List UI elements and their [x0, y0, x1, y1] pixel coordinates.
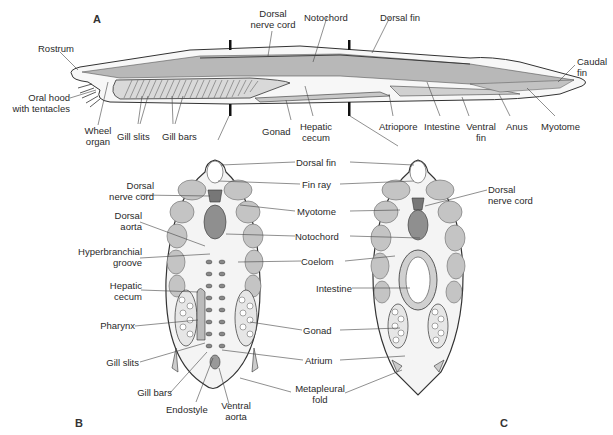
label-intestine-a: Intestine	[424, 121, 460, 132]
label-dnc-a-line1: Dorsal	[240, 8, 306, 19]
panel-letter-c: C	[500, 417, 508, 429]
label-oral-hood: Oral hood with tentacles	[4, 92, 70, 114]
label-fin-ray: Fin ray	[302, 179, 331, 190]
label-gill-bars-b: Gill bars	[110, 387, 172, 398]
label-dorsal-nerve-cord-b: Dorsal nerve cord	[88, 180, 154, 202]
label-dnc-c-line1: Dorsal	[488, 184, 533, 195]
label-dorsal-fin-shared: Dorsal fin	[296, 157, 336, 168]
label-notochord-shared: Notochord	[295, 231, 339, 242]
label-myotome-shared: Myotome	[297, 206, 336, 217]
label-gonad-shared: Gonad	[303, 325, 332, 336]
label-vf-line1: Ventral	[464, 121, 498, 132]
label-wheel-organ-line1: Wheel	[78, 125, 118, 136]
label-hg-line2: groove	[60, 257, 142, 268]
label-hc-a-line1: Hepatic	[296, 121, 336, 132]
label-hepatic-cecum-b: Hepatic cecum	[88, 280, 142, 302]
label-hc-b-line2: cecum	[88, 291, 142, 302]
label-dorsal-nerve-cord-c: Dorsal nerve cord	[488, 184, 533, 206]
panel-letter-a: A	[93, 13, 101, 25]
label-ventral-aorta: Ventral aorta	[216, 400, 256, 422]
label-gill-bars: Gill bars	[162, 131, 197, 142]
panel-letter-b: B	[75, 417, 83, 429]
label-dorsal-fin-a: Dorsal fin	[380, 12, 420, 23]
label-atriopore: Atriopore	[379, 121, 418, 132]
label-mf-line1: Metapleural	[292, 383, 348, 394]
label-coelom: Coelom	[301, 256, 334, 267]
label-myotome-a: Myotome	[541, 121, 580, 132]
panel-a-body	[71, 40, 586, 116]
label-vf-line2: fin	[464, 132, 498, 143]
panel-b-cross-section	[166, 160, 263, 389]
label-dnc-b-line2: nerve cord	[88, 191, 154, 202]
label-dnc-b-line1: Dorsal	[88, 180, 154, 191]
label-endostyle: Endostyle	[166, 404, 208, 415]
label-hepatic-cecum-a: Hepatic cecum	[296, 121, 336, 143]
label-intestine-c: Intestine	[316, 283, 352, 294]
label-metapleural-fold: Metapleural fold	[292, 383, 348, 405]
label-anus: Anus	[506, 121, 528, 132]
label-oral-hood-line1: Oral hood	[4, 92, 70, 103]
label-va-line2: aorta	[216, 411, 256, 422]
label-oral-hood-line2: with tentacles	[4, 103, 70, 114]
label-wheel-organ: Wheel organ	[78, 125, 118, 147]
label-va-line1: Ventral	[216, 400, 256, 411]
label-cf-line1: Caudal	[577, 56, 607, 67]
label-dnc-c-line2: nerve cord	[488, 195, 533, 206]
label-dorsal-nerve-cord-a: Dorsal nerve cord	[240, 8, 306, 30]
label-gonad-a: Gonad	[262, 126, 291, 137]
label-ventral-fin: Ventral fin	[464, 121, 498, 143]
label-atrium: Atrium	[305, 355, 332, 366]
label-da-line2: aorta	[88, 221, 142, 232]
label-caudal-fin: Caudal fin	[577, 56, 607, 78]
label-dnc-a-line2: nerve cord	[240, 19, 306, 30]
label-hg-line1: Hyperbranchial	[60, 246, 142, 257]
label-notochord-a: Notochord	[304, 12, 348, 23]
label-dorsal-aorta: Dorsal aorta	[88, 210, 142, 232]
amphioxus-anatomy-figure: A B C Rostrum Oral hood with tentacles W…	[0, 0, 613, 435]
label-hyperbranchial-groove: Hyperbranchial groove	[60, 246, 142, 268]
label-hc-b-line1: Hepatic	[88, 280, 142, 291]
label-gill-slits-b: Gill slits	[80, 357, 139, 368]
label-gill-slits: Gill slits	[117, 131, 150, 142]
label-hc-a-line2: cecum	[296, 132, 336, 143]
panel-c-cross-section	[371, 160, 465, 395]
label-cf-line2: fin	[577, 67, 607, 78]
label-rostrum: Rostrum	[38, 43, 74, 54]
label-da-line1: Dorsal	[88, 210, 142, 221]
label-wheel-organ-line2: organ	[78, 136, 118, 147]
label-pharynx: Pharynx	[80, 320, 135, 331]
label-mf-line2: fold	[292, 394, 348, 405]
